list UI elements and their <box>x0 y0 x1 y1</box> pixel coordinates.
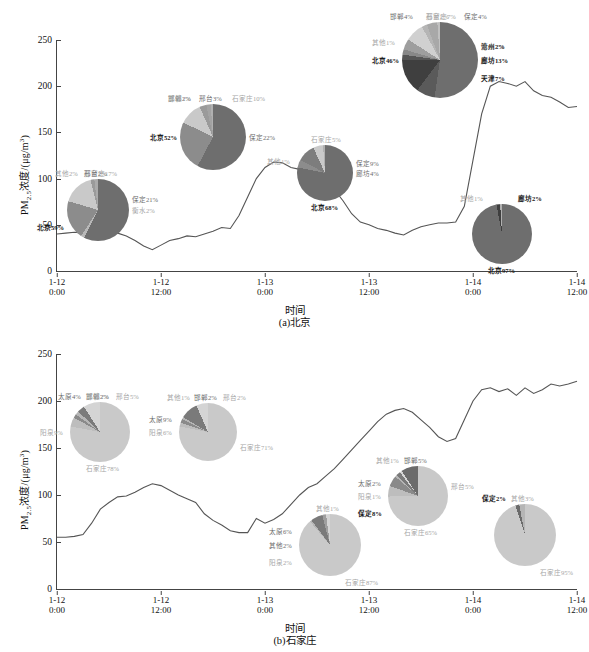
pie-label-a1-2: 保定21% <box>132 196 158 203</box>
pie-label-a3-0: 北京68% <box>311 204 338 211</box>
pie-label-a1-1: 衡水2% <box>132 207 155 214</box>
y-tick-a-0: 0 <box>47 266 57 276</box>
y-axis-label-a: PM2.5浓度/(μg/m3) <box>16 135 33 215</box>
pie-chart-a2: 北京52%保定22%石家庄10%邢台3%邯郸2%其他1% <box>180 104 246 170</box>
y-tick-b-200: 200 <box>38 396 57 406</box>
pie-label-b4-2: 邯郸5% <box>404 457 427 464</box>
pie-label-a4-5: 保定4% <box>464 13 487 20</box>
pie-chart-a4: 北京46%天津7%廊坊13%沧州2%衡水2%保定4%石家庄7%邢台2%邯郸4%其… <box>402 22 478 98</box>
pie-label-a4-7: 邢台2% <box>426 13 449 20</box>
pie-slices-b5 <box>494 504 556 566</box>
pie-label-b1-5: 阳泉9% <box>40 429 63 436</box>
pie-label-b4-4: 太原2% <box>358 480 381 487</box>
pie-chart-a1: 北京59%衡水2%保定21%石家庄17%邢台2%其他2% <box>67 179 129 241</box>
x-tick-b-5: 1-1412:00 <box>567 595 588 615</box>
y-axis-label-b: PM2.5浓度/(μg/m3) <box>16 450 33 530</box>
pie-slices-b3 <box>299 514 361 576</box>
pie-label-b5-0: 石家庄95% <box>540 569 573 576</box>
pie-slices-b1 <box>70 402 130 462</box>
x-tick-a-4: 1-140:00 <box>465 277 482 297</box>
pie-slices-a4 <box>402 22 478 98</box>
pie-label-a3-3: 石家庄5% <box>311 136 341 143</box>
panel-caption-a: (a)北京 <box>0 314 589 329</box>
pie-slices-a2 <box>180 104 246 170</box>
pie-label-b1-4: 太原4% <box>58 393 81 400</box>
pie-label-a5-0: 北京97% <box>488 267 515 274</box>
pie-label-a2-3: 邢台3% <box>199 95 222 102</box>
pie-label-b2-1: 邢台2% <box>223 394 246 401</box>
panel-beijing: PM2.5浓度/(μg/m3) 0 50 100 150 200 250 1-1… <box>0 0 589 330</box>
pie-label-b3-4: 阳泉2% <box>269 559 292 566</box>
x-tick-a-1: 1-1212:00 <box>151 277 172 297</box>
pie-label-a3-4: 其他1% <box>267 158 290 165</box>
y-tick-a-250: 250 <box>38 35 57 45</box>
pie-label-a2-5: 其他1% <box>168 95 191 102</box>
panel-shijiazhuang: PM2.5浓度/(μg/m3) 0 50 100 150 200 250 1-1… <box>0 330 589 652</box>
pie-label-b5-2: 其他3% <box>511 495 534 502</box>
panel-caption-b: (b)石家庄 <box>0 632 589 647</box>
pie-label-a1-5: 其他2% <box>55 170 78 177</box>
y-tick-b-0: 0 <box>47 584 57 594</box>
pie-slices-b2 <box>179 403 237 461</box>
pie-label-a4-4: 衡水2% <box>481 43 504 50</box>
y-tick-b-250: 250 <box>38 349 57 359</box>
pie-label-a4-9: 其他1% <box>372 39 395 46</box>
pie-label-b2-3: 其他1% <box>167 394 190 401</box>
pie-label-b4-5: 阳泉1% <box>358 493 381 500</box>
pie-label-a3-1: 廊坊4% <box>356 170 379 177</box>
pie-chart-a3: 北京68%廊坊4%保定9%石家庄5%其他1% <box>297 145 353 201</box>
pie-label-b4-3: 其他1% <box>376 457 399 464</box>
pie-slices-a5 <box>472 204 532 264</box>
x-tick-a-2: 1-130:00 <box>257 277 274 297</box>
pie-label-b3-2: 太原6% <box>269 528 292 535</box>
pie-label-b3-1: 其他1% <box>316 505 339 512</box>
pie-label-b1-1: 邢台5% <box>116 393 139 400</box>
x-tick-a-3: 1-1312:00 <box>359 277 380 297</box>
pie-slices-a3 <box>297 145 353 201</box>
pie-chart-a5: 北京97%廊坊2%其他1% <box>472 204 532 264</box>
pie-label-a4-2: 廊坊13% <box>481 57 508 64</box>
pie-label-a2-2: 石家庄10% <box>232 95 265 102</box>
pie-chart-b3: 石家庄87%其他1%太原6%其他2%阳泉2% <box>299 514 361 576</box>
pie-label-b5-1: 保定2% <box>482 495 506 502</box>
pie-label-a4-0: 北京46% <box>372 57 399 64</box>
pie-label-b2-5: 阳泉6% <box>149 429 172 436</box>
pie-label-b2-4: 太原9% <box>149 416 172 423</box>
x-tick-a-5: 1-1412:00 <box>567 277 588 297</box>
pie-label-a4-1: 天津7% <box>481 75 505 82</box>
y-tick-b-100: 100 <box>38 490 57 500</box>
x-tick-b-3: 1-1312:00 <box>359 595 380 615</box>
pie-label-b3-0: 石家庄87% <box>345 579 378 586</box>
pie-label-a5-2: 其他1% <box>460 195 483 202</box>
pie-label-a1-0: 北京59% <box>37 224 64 231</box>
pie-label-b4-1: 邢台5% <box>451 483 474 490</box>
pie-label-b3-3: 其他2% <box>269 542 292 549</box>
pie-label-a3-2: 保定9% <box>356 160 379 167</box>
pie-slices-b4 <box>388 466 448 526</box>
pie-label-a5-1: 廊坊2% <box>518 195 542 202</box>
pie-label-b1-0: 石家庄78% <box>86 465 119 472</box>
pie-chart-b1: 石家庄78%邢台5%邯郸2%其他2%太原4%阳泉9% <box>70 402 130 462</box>
y-tick-a-200: 200 <box>38 81 57 91</box>
pie-label-a2-1: 保定22% <box>249 134 275 141</box>
pie-label-a1-4: 邢台2% <box>84 170 107 177</box>
pie-label-a4-8: 邯郸4% <box>390 13 413 20</box>
x-tick-b-1: 1-1212:00 <box>151 595 172 615</box>
pie-label-b4-0: 石家庄65% <box>404 529 437 536</box>
pie-chart-b5: 石家庄95%保定2%其他3% <box>494 504 556 566</box>
pie-chart-b2: 石家庄71%邢台2%邯郸2%其他1%太原9%阳泉6% <box>179 403 237 461</box>
pie-label-b2-2: 邯郸2% <box>194 394 217 401</box>
pie-slices-a1 <box>67 179 129 241</box>
y-tick-b-50: 50 <box>43 537 58 547</box>
pie-label-b4-6: 保定8% <box>358 510 382 517</box>
y-tick-b-150: 150 <box>38 443 57 453</box>
pie-label-b1-3: 其他2% <box>86 393 109 400</box>
pie-label-a2-0: 北京52% <box>150 134 177 141</box>
x-tick-b-2: 1-130:00 <box>257 595 274 615</box>
pie-chart-b4: 石家庄65%邢台5%邯郸5%其他1%太原2%阳泉1%保定8% <box>388 466 448 526</box>
x-tick-b-4: 1-140:00 <box>465 595 482 615</box>
x-tick-a-0: 1-120:00 <box>49 277 66 297</box>
pie-label-b2-0: 石家庄71% <box>240 444 273 451</box>
y-tick-a-150: 150 <box>38 127 57 137</box>
x-tick-b-0: 1-120:00 <box>49 595 66 615</box>
